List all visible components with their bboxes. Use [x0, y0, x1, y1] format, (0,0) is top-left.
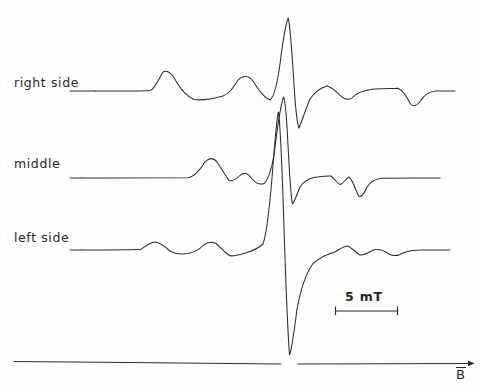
- trace-label-right-side: right side: [14, 75, 79, 90]
- b-axis-right-segment: [298, 363, 468, 364]
- trace-right-side: [95, 18, 455, 128]
- spectra-plot: [0, 0, 480, 391]
- figure-root: right side middle left side 5 mT B: [0, 0, 480, 391]
- b-axis-arrowhead: [468, 361, 475, 367]
- trace-middle: [82, 97, 440, 204]
- scale-bar-label: 5 mT: [345, 289, 383, 304]
- b-axis-label: B: [456, 367, 466, 382]
- trace-label-middle: middle: [14, 156, 60, 171]
- trace-label-left-side: left side: [14, 230, 69, 245]
- b-axis-label-text: B: [456, 367, 466, 382]
- b-axis-left-segment: [14, 362, 281, 365]
- trace-left-side: [82, 112, 450, 355]
